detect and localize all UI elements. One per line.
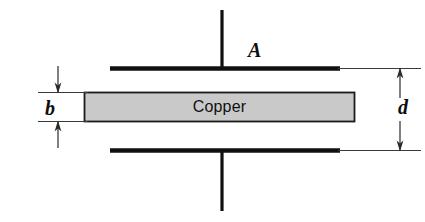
plate-separation-label: d — [398, 97, 408, 117]
copper-slab-label: Copper — [84, 92, 355, 122]
slab-thickness-label: b — [45, 98, 55, 118]
capacitor-copper-slab-figure: A b d Copper — [0, 0, 425, 222]
plate-area-label: A — [248, 40, 261, 60]
